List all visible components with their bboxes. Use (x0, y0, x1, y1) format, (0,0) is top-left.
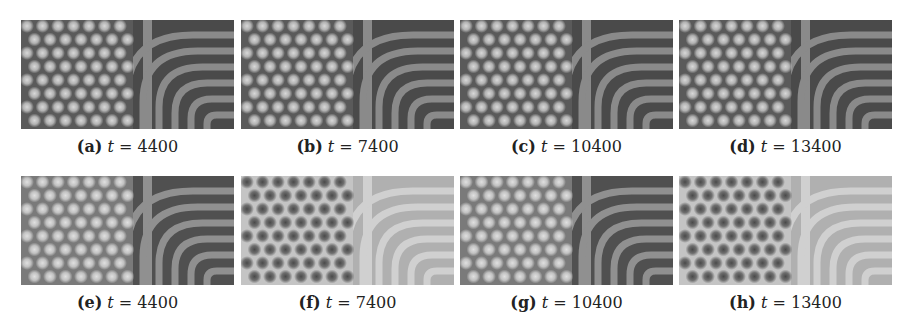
panel-label: (a) (77, 137, 103, 156)
time-variable: t (107, 293, 113, 312)
time-value: 10400 (572, 293, 623, 312)
time-value: 4400 (137, 293, 178, 312)
panel-g: (g) t = 10400 (460, 176, 673, 285)
panel-label: (e) (77, 293, 102, 312)
time-variable: t (326, 293, 332, 312)
equals-sign: = (337, 293, 350, 312)
panel-caption: (d) t = 13400 (679, 137, 892, 156)
panel-f: (f) t = 7400 (241, 176, 454, 285)
equals-sign: = (773, 293, 786, 312)
time-variable: t (541, 137, 547, 156)
panel-e: (e) t = 4400 (21, 176, 234, 285)
time-value: 13400 (791, 293, 842, 312)
panel-d: (d) t = 13400 (679, 20, 892, 129)
time-variable: t (328, 137, 334, 156)
time-value: 7400 (356, 293, 397, 312)
panel-label: (b) (296, 137, 322, 156)
pattern-image (21, 20, 234, 129)
pattern-image (460, 20, 673, 129)
equals-sign: = (772, 137, 785, 156)
panel-label: (f) (299, 293, 321, 312)
time-variable: t (542, 293, 548, 312)
time-variable: t (107, 137, 113, 156)
pattern-image (460, 176, 673, 285)
panel-label: (g) (510, 293, 536, 312)
time-value: 7400 (358, 137, 399, 156)
pattern-image (679, 20, 892, 129)
panel-caption: (e) t = 4400 (21, 293, 234, 312)
panel-caption: (g) t = 10400 (460, 293, 673, 312)
panel-a: (a) t = 4400 (21, 20, 234, 129)
panel-caption: (f) t = 7400 (241, 293, 454, 312)
equals-sign: = (119, 293, 132, 312)
time-variable: t (761, 137, 767, 156)
panel-h: (h) t = 13400 (679, 176, 892, 285)
panel-caption: (b) t = 7400 (241, 137, 454, 156)
pattern-image (21, 176, 234, 285)
panel-caption: (a) t = 4400 (21, 137, 234, 156)
panel-label: (d) (729, 137, 755, 156)
time-variable: t (761, 293, 767, 312)
time-value: 13400 (791, 137, 842, 156)
panel-caption: (c) t = 10400 (460, 137, 673, 156)
panel-label: (c) (511, 137, 536, 156)
panel-label: (h) (729, 293, 756, 312)
pattern-image (241, 20, 454, 129)
pattern-image (679, 176, 892, 285)
pattern-image (241, 176, 454, 285)
equals-sign: = (553, 137, 566, 156)
panel-caption: (h) t = 13400 (679, 293, 892, 312)
panel-b: (b) t = 7400 (241, 20, 454, 129)
time-value: 10400 (571, 137, 622, 156)
panel-c: (c) t = 10400 (460, 20, 673, 129)
time-value: 4400 (137, 137, 178, 156)
equals-sign: = (553, 293, 566, 312)
equals-sign: = (119, 137, 132, 156)
equals-sign: = (339, 137, 352, 156)
